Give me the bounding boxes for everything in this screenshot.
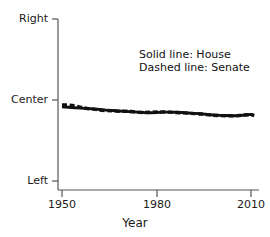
y-tick-label-center: Center (0, 94, 48, 106)
y-tick-label-right: Right (0, 13, 48, 25)
series-line-senate (62, 105, 254, 116)
x-axis-title: Year (0, 216, 270, 230)
chart-figure: Right Center Left 1950 1980 2010 Year So… (0, 0, 270, 237)
x-tick-label-2010: 2010 (221, 199, 270, 211)
data-series-group (62, 105, 254, 116)
y-tick-label-left: Left (0, 175, 48, 187)
legend-dashed-senate: Dashed line: Senate (139, 61, 250, 74)
x-tick-label-1950: 1950 (32, 199, 92, 211)
x-tick-label-1980: 1980 (127, 199, 187, 211)
legend-solid-house: Solid line: House (139, 48, 231, 61)
